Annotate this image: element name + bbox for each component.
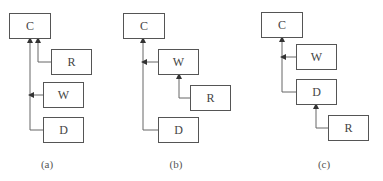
box-c-d: D [296, 79, 337, 105]
box-label: C [140, 19, 148, 34]
box-label: R [344, 121, 352, 136]
box-c-c: C [261, 12, 303, 38]
box-a-d: D [43, 117, 84, 143]
caption-a: (a) [41, 158, 53, 170]
box-label: R [67, 55, 75, 70]
box-b-d: D [158, 117, 199, 143]
caption-c: (c) [318, 158, 330, 170]
caption-b: (b) [170, 158, 183, 170]
edge-c-r-d [316, 106, 328, 128]
edge-c-d-c [282, 39, 296, 92]
box-label: W [311, 50, 322, 65]
box-label: C [26, 19, 34, 34]
box-b-w: W [158, 49, 199, 75]
box-label: W [173, 55, 184, 70]
box-c-w: W [296, 44, 337, 70]
box-a-c: C [9, 13, 51, 39]
box-label: C [278, 18, 286, 33]
box-label: D [59, 123, 68, 138]
edge-a-r-c [38, 40, 51, 62]
box-label: D [312, 85, 321, 100]
box-a-w: W [43, 82, 84, 108]
box-label: D [174, 123, 183, 138]
box-label: W [58, 88, 69, 103]
edge-a-d-c [30, 40, 43, 130]
box-c-r: R [328, 115, 369, 141]
box-a-r: R [51, 49, 92, 75]
edge-b-d-c [143, 40, 158, 130]
edge-b-r-w [179, 76, 190, 98]
box-b-r: R [190, 85, 231, 111]
box-b-c: C [123, 13, 165, 39]
box-label: R [206, 91, 214, 106]
